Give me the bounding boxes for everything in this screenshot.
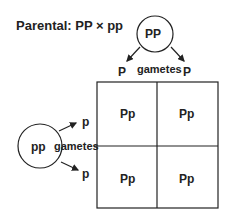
top-gamete-2: P [183,66,191,78]
left-gamete-2: p [82,168,89,180]
top-gametes-label: gametes [137,64,182,75]
arrow-top-right [171,47,184,61]
punnett-diagram: Parental: PP × pp PP P gametes P pp game… [0,0,227,221]
parent-left-genotype: pp [31,141,46,153]
cell-2-1: Pp [120,173,135,185]
parent-top-genotype: PP [145,28,161,40]
cell-1-2: Pp [179,108,194,120]
arrow-top-left [127,47,140,61]
top-gamete-1: P [118,66,126,78]
arrow-left-down [61,162,78,170]
left-gametes-label: gametes [54,141,99,152]
arrow-left-up [59,123,76,131]
cell-2-2: Pp [179,173,194,185]
title: Parental: PP × pp [16,19,123,32]
cell-1-1: Pp [120,108,135,120]
left-gamete-1: p [82,116,89,128]
